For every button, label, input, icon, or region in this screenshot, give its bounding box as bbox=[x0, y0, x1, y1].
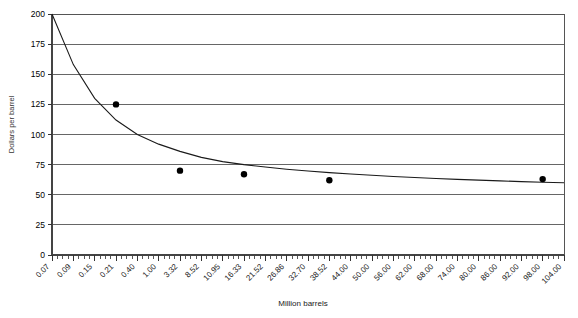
y-tick-label-150: 150 bbox=[31, 69, 45, 79]
x-tick-label-7: 8.52 bbox=[183, 262, 201, 280]
x-tick-label-8: 10.95 bbox=[202, 262, 223, 283]
x-tick-label-19: 74.00 bbox=[436, 262, 457, 283]
x-tick-label-17: 62.00 bbox=[394, 262, 415, 283]
y-axis-title: Dollars per barrel bbox=[7, 95, 16, 153]
y-tick-label-125: 125 bbox=[31, 99, 45, 109]
x-tick-label-16: 56.00 bbox=[372, 262, 393, 283]
price-quantity-chart: 02550751001251501752000.070.090.150.210.… bbox=[0, 0, 578, 318]
y-tick-label-100: 100 bbox=[31, 130, 45, 140]
y-tick-label-50: 50 bbox=[36, 190, 46, 200]
x-tick-label-24: 104.00 bbox=[540, 262, 564, 286]
x-axis-title: Million barrels bbox=[278, 299, 327, 308]
x-tick-label-15: 50.00 bbox=[351, 262, 372, 283]
x-tick-label-11: 26.86 bbox=[266, 262, 287, 283]
y-tick-label-75: 75 bbox=[36, 160, 46, 170]
x-tick-label-22: 92.00 bbox=[500, 262, 521, 283]
y-tick-label-25: 25 bbox=[36, 220, 46, 230]
y-tick-label-175: 175 bbox=[31, 39, 45, 49]
y-tick-label-200: 200 bbox=[31, 9, 45, 19]
x-tick-label-20: 80.00 bbox=[458, 262, 479, 283]
x-tick-label-5: 1.00 bbox=[141, 262, 159, 280]
x-tick-label-12: 32.70 bbox=[287, 262, 308, 283]
trend-line-curve bbox=[52, 14, 564, 183]
data-point-1[interactable] bbox=[177, 167, 183, 173]
x-tick-label-21: 86.00 bbox=[479, 262, 500, 283]
x-tick-label-2: 0.15 bbox=[77, 262, 95, 280]
x-tick-label-4: 0.40 bbox=[119, 262, 137, 280]
x-tick-label-18: 68.00 bbox=[415, 262, 436, 283]
x-tick-label-9: 16.33 bbox=[223, 262, 244, 283]
x-tick-label-1: 0.09 bbox=[55, 262, 73, 280]
data-point-4[interactable] bbox=[539, 176, 545, 182]
chart-container: 02550751001251501752000.070.090.150.210.… bbox=[0, 0, 578, 318]
data-point-2[interactable] bbox=[241, 171, 247, 177]
x-tick-label-0: 0.07 bbox=[34, 262, 52, 280]
x-tick-label-6: 3.32 bbox=[162, 262, 180, 280]
x-tick-label-13: 38.52 bbox=[308, 262, 329, 283]
data-point-3[interactable] bbox=[326, 177, 332, 183]
x-tick-label-3: 0.21 bbox=[98, 262, 116, 280]
x-tick-label-14: 44.00 bbox=[330, 262, 351, 283]
data-point-0[interactable] bbox=[113, 101, 119, 107]
x-tick-label-10: 21.52 bbox=[244, 262, 265, 283]
y-tick-label-0: 0 bbox=[40, 250, 45, 260]
